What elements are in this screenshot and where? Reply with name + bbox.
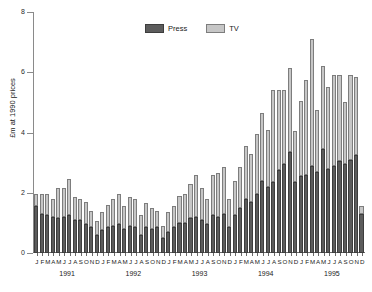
x-tick <box>302 253 303 256</box>
bar-segment-tv <box>343 102 347 164</box>
x-tick <box>53 253 54 256</box>
x-year-label-1995: 1995 <box>312 270 352 278</box>
x-tick <box>307 253 308 256</box>
y-tick-4 <box>27 133 33 134</box>
x-tick <box>48 253 49 256</box>
bar-segment-tv <box>84 202 88 225</box>
bar-segment-press <box>106 227 110 253</box>
bar-segment-tv <box>122 206 126 229</box>
bar-segment-tv <box>62 188 66 217</box>
x-tick <box>125 253 126 256</box>
bar-segment-tv <box>106 205 110 228</box>
x-tick <box>268 253 269 256</box>
bar-segment-tv <box>282 90 286 164</box>
x-tick <box>285 253 286 256</box>
bar-segment-press <box>222 214 226 253</box>
bar-segment-tv <box>315 110 319 172</box>
y-tick-6 <box>27 72 33 73</box>
x-tick <box>81 253 82 256</box>
bar-segment-press <box>67 215 71 253</box>
bar-segment-press <box>293 182 297 253</box>
bar-segment-tv <box>266 130 270 187</box>
x-tick <box>114 253 115 256</box>
x-tick <box>186 253 187 256</box>
x-tick <box>180 253 181 256</box>
bar-segment-press <box>133 227 137 253</box>
x-month-label: D <box>358 258 366 265</box>
x-tick <box>296 253 297 256</box>
bar-segment-tv <box>255 134 259 194</box>
bar-segment-press <box>255 194 259 253</box>
x-tick <box>279 253 280 256</box>
bar-segment-tv <box>51 199 55 217</box>
bar-segment-press <box>277 170 281 253</box>
x-tick <box>108 253 109 256</box>
bar-segment-press <box>211 215 215 253</box>
bar-segment-tv <box>260 113 264 181</box>
x-tick <box>64 253 65 256</box>
bar-segment-press <box>194 217 198 253</box>
bar-segment-tv <box>205 199 209 225</box>
x-tick <box>42 253 43 256</box>
bar-segment-tv <box>56 188 60 218</box>
x-tick <box>257 253 258 256</box>
bar-segment-press <box>51 217 55 253</box>
y-tick-label-wrap-2: 2 <box>0 189 25 196</box>
bar-segment-press <box>95 235 99 253</box>
bar-segment-tv <box>249 154 253 202</box>
bar-segment-press <box>326 169 330 253</box>
bar-segment-press <box>227 227 231 253</box>
bar-segment-press <box>45 215 49 253</box>
bar-segment-press <box>205 224 209 253</box>
bar-segment-tv <box>244 146 248 199</box>
x-tick <box>340 253 341 256</box>
x-year-label-1994: 1994 <box>246 270 286 278</box>
bar-segment-press <box>73 220 77 253</box>
bar-segment-press <box>40 214 44 253</box>
bar-segment-tv <box>89 211 93 228</box>
bar-segment-tv <box>304 80 308 175</box>
bar-segment-tv <box>359 206 363 214</box>
x-tick <box>169 253 170 256</box>
x-tick <box>70 253 71 256</box>
bar-segment-tv <box>321 66 325 149</box>
chart-figure: £m at 1990 prices 02468 Press TV JFMAMJJ… <box>0 0 372 292</box>
x-year-label-1991: 1991 <box>47 270 87 278</box>
y-tick-8 <box>27 12 33 13</box>
x-tick <box>246 253 247 256</box>
bar-segment-press <box>348 160 352 253</box>
x-tick <box>357 253 358 256</box>
bar-series-container <box>34 12 365 253</box>
bar-segment-tv <box>166 212 170 232</box>
bar-segment-tv <box>227 199 231 228</box>
bar-segment-tv <box>95 221 99 235</box>
bar-segment-press <box>337 161 341 253</box>
bar-segment-press <box>100 230 104 253</box>
bar-segment-press <box>266 187 270 253</box>
bar-segment-tv <box>233 181 237 216</box>
bar-segment-tv <box>155 211 159 228</box>
bar-segment-press <box>304 175 308 253</box>
bar-segment-tv <box>100 212 104 230</box>
bar-segment-tv <box>277 90 281 170</box>
bar-segment-press <box>89 227 93 253</box>
bar-segment-tv <box>200 188 204 220</box>
bar-segment-tv <box>337 75 341 161</box>
bar-segment-tv <box>238 167 242 208</box>
bar-segment-press <box>260 181 264 253</box>
bar-segment-press <box>172 227 176 253</box>
x-tick <box>197 253 198 256</box>
bar-segment-tv <box>354 77 358 155</box>
bar-segment-press <box>111 226 115 253</box>
bar-segment-press <box>310 166 314 253</box>
x-tick <box>153 253 154 256</box>
x-tick <box>164 253 165 256</box>
y-tick-label-8: 8 <box>3 8 25 15</box>
x-year-label-1993: 1993 <box>180 270 220 278</box>
bar-segment-press <box>244 199 248 253</box>
y-tick-label-4: 4 <box>3 129 25 136</box>
bar-segment-tv <box>161 226 165 238</box>
x-tick <box>142 253 143 256</box>
y-tick-label-wrap-6: 6 <box>0 68 25 75</box>
x-tick <box>224 253 225 256</box>
